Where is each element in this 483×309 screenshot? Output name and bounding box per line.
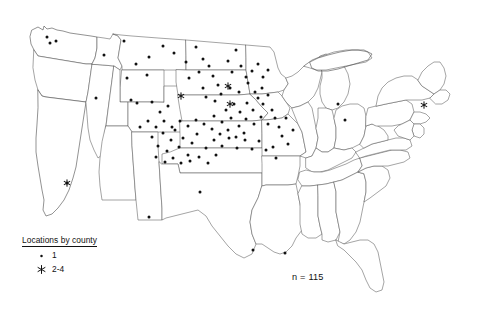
map-marker-dot xyxy=(211,128,214,131)
map-marker-asterisk xyxy=(421,102,427,108)
map-marker-dot xyxy=(213,139,216,142)
map-marker-dot xyxy=(337,103,340,106)
map-marker-dot xyxy=(214,100,217,103)
map-marker-dot xyxy=(151,101,154,104)
map-marker-dot xyxy=(202,58,205,61)
legend: Locations by county 1 2-4 xyxy=(22,236,97,274)
map-marker-dot xyxy=(215,154,218,157)
map-marker-dot xyxy=(252,249,255,252)
map-marker-dot xyxy=(171,126,174,129)
legend-item-1-label: 1 xyxy=(52,251,57,260)
map-marker-dot xyxy=(221,145,224,148)
map-marker-dot xyxy=(179,120,182,123)
map-marker-dot xyxy=(254,91,257,94)
map-marker-dot xyxy=(198,156,201,159)
map-marker-dot xyxy=(147,120,150,123)
sample-size-label: n = 115 xyxy=(292,272,324,282)
map-marker-dot xyxy=(130,99,133,102)
map-marker-dot xyxy=(187,125,190,128)
map-marker-dot xyxy=(148,216,151,219)
map-marker-dot xyxy=(267,123,270,126)
map-marker-dot xyxy=(187,154,190,157)
map-marker-dot xyxy=(253,123,256,126)
map-marker-dot xyxy=(205,96,208,99)
map-marker-dot xyxy=(281,135,284,138)
map-marker-dot xyxy=(239,111,242,114)
map-marker-dot xyxy=(155,156,158,159)
map-marker-dot xyxy=(103,54,106,57)
map-marker-dot xyxy=(262,76,265,79)
map-marker-dot xyxy=(167,105,170,108)
map-marker-dot xyxy=(213,115,216,118)
map-marker-dot xyxy=(225,109,228,112)
map-marker-dot xyxy=(252,109,255,112)
map-marker-dot xyxy=(185,61,188,64)
map-marker-dot xyxy=(274,117,277,120)
legend-item-2: 2-4 xyxy=(35,265,97,274)
map-marker-dot xyxy=(135,63,138,66)
map-marker-dot xyxy=(157,145,160,148)
map-marker-dot xyxy=(231,71,234,74)
map-marker-dot xyxy=(244,139,247,142)
map-marker-dot xyxy=(272,146,275,149)
asterisk-icon xyxy=(35,264,48,275)
map-marker-dot xyxy=(162,45,165,48)
map-marker-dot xyxy=(164,161,167,164)
map-marker-dot xyxy=(139,126,142,129)
map-marker-dot xyxy=(238,125,241,128)
map-marker-dot xyxy=(146,74,149,77)
map-marker-dot xyxy=(198,71,201,74)
map-marker-dot xyxy=(243,132,246,135)
map-marker-dot xyxy=(344,119,347,122)
map-marker-dot xyxy=(247,82,250,85)
map-marker-dot xyxy=(235,49,238,52)
map-marker-dot xyxy=(267,94,270,97)
map-marker-dot xyxy=(278,126,281,129)
map-marker-dot xyxy=(285,117,288,120)
map-marker-dot xyxy=(202,87,205,90)
map-marker-dot xyxy=(205,147,208,150)
map-marker-dot xyxy=(126,77,129,80)
map-marker-dot xyxy=(189,160,192,163)
map-marker-dot xyxy=(275,157,278,160)
map-marker-dot xyxy=(191,142,194,145)
map-marker-dot xyxy=(173,52,176,55)
map-marker-dot xyxy=(199,191,202,194)
map-marker-dot xyxy=(49,42,52,45)
map-marker-dot xyxy=(267,69,270,72)
map-marker-dot xyxy=(151,136,154,139)
dot-icon xyxy=(35,251,48,260)
map-marker-dot xyxy=(148,56,151,59)
map-marker-dot xyxy=(258,140,261,143)
map-marker-dot xyxy=(136,102,139,105)
map-marker-dot xyxy=(208,65,211,68)
map-marker-dot xyxy=(284,252,287,255)
legend-item-1: 1 xyxy=(35,251,97,260)
map-marker-dot xyxy=(221,121,224,124)
map-marker-dot xyxy=(227,60,230,63)
map-marker-dot xyxy=(166,150,169,153)
map-marker-dot xyxy=(196,133,199,136)
map-marker-dot xyxy=(95,97,98,100)
map-marker-dot xyxy=(251,148,254,151)
map-marker-dot xyxy=(217,84,220,87)
map-marker-dot xyxy=(257,63,260,66)
map-marker-dot xyxy=(123,40,126,43)
map-marker-dot xyxy=(172,157,175,160)
map-marker-dot xyxy=(238,91,241,94)
map-marker-dot xyxy=(203,123,206,126)
map-marker-dot xyxy=(178,146,181,149)
map-marker-dot xyxy=(212,75,215,78)
map-marker-dot xyxy=(262,103,265,106)
map-marker-dot xyxy=(162,132,165,135)
map-marker-dot xyxy=(180,162,183,165)
map-marker-dot xyxy=(174,129,177,132)
map-marker-dot xyxy=(261,87,264,90)
legend-item-2-label: 2-4 xyxy=(52,265,64,274)
map-marker-dot xyxy=(207,162,210,165)
map-marker-dot xyxy=(170,139,173,142)
map-marker-dot xyxy=(245,76,248,79)
map-marker-dot xyxy=(195,119,198,122)
map-marker-dot xyxy=(188,77,191,80)
map-marker-dot xyxy=(271,109,274,112)
